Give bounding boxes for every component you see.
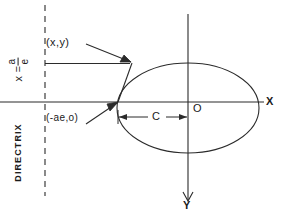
- point-label-arrow-icon: [120, 55, 131, 62]
- ellipse-figure: (x,y) (-ae,o) C O X Y DIRECTRIX x =ae: [0, 0, 282, 219]
- x-axis-label: X: [266, 96, 274, 107]
- point-xy-label: (x,y): [46, 37, 69, 48]
- c-dimension-left-arrow-icon: [119, 114, 127, 120]
- directrix-equation-lhs: x =: [12, 65, 24, 81]
- c-dimension-right-arrow-icon: [179, 114, 187, 120]
- center-origin-label: O: [193, 103, 202, 114]
- focus-label-arrow-icon: [107, 102, 118, 111]
- fraction-denominator: e: [19, 57, 30, 65]
- distance-c-label: C: [152, 111, 160, 122]
- focus-coordinates-label: (-ae,o): [46, 113, 78, 123]
- directrix-label: DIRECTRIX: [14, 123, 23, 181]
- fraction-numerator: a: [7, 57, 19, 65]
- figure-canvas: [0, 0, 282, 219]
- y-axis-label: Y: [183, 200, 191, 211]
- directrix-equation-fraction: ae: [7, 57, 30, 65]
- directrix-equation-label: x =ae: [8, 57, 31, 81]
